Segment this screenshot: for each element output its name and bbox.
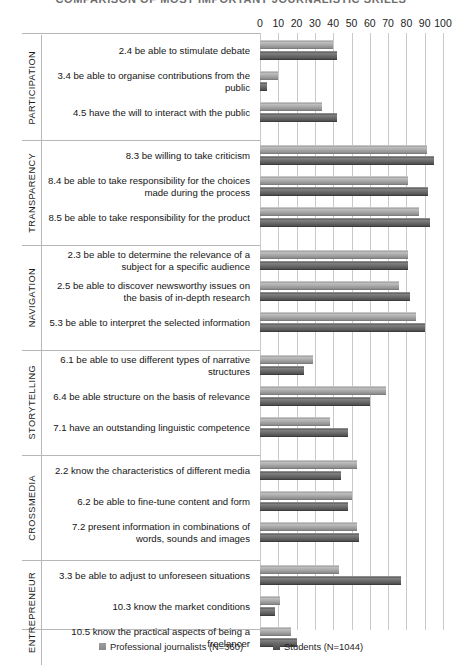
bar-professional-journalists [260, 596, 280, 605]
chart-row: 7.1 have an outstanding linguistic compe… [41, 412, 443, 443]
bar-students [260, 292, 410, 301]
legend-label: Professional journalists (N=360) [110, 641, 243, 652]
row-bars [260, 276, 443, 307]
row-label: 5.3 be able to interpret the selected in… [41, 307, 255, 338]
row-label: 6.4 be able structure on the basis of re… [41, 381, 255, 412]
row-label: 7.1 have an outstanding linguistic compe… [41, 412, 255, 443]
row-bars [260, 97, 443, 128]
section-label-participation: PARTICIPATION [24, 35, 40, 140]
bar-students [260, 533, 359, 542]
row-bars [260, 171, 443, 202]
bar-students [260, 323, 425, 332]
axis-tick-70: 70 [382, 17, 394, 29]
bar-students [260, 397, 370, 406]
row-bars [260, 350, 443, 381]
row-bars [260, 486, 443, 517]
chart-title: COMPARISON OF MOST IMPORTANT JOURNALISTI… [0, 0, 462, 5]
row-label: 8.5 be able to take responsibility for t… [41, 202, 255, 233]
bar-professional-journalists [260, 355, 313, 364]
bar-students [260, 428, 348, 437]
bar-professional-journalists [260, 250, 408, 259]
row-label: 2.5 be able to discover newsworthy issue… [41, 276, 255, 307]
chart-row: 10.3 know the market conditions [41, 591, 443, 622]
legend-swatch-icon [273, 643, 280, 650]
bar-professional-journalists [260, 460, 357, 469]
chart-row: 3.4 be able to organise contributions fr… [41, 66, 443, 97]
axis-tick-60: 60 [364, 17, 376, 29]
bar-students [260, 471, 341, 480]
section-label-text: TRANSPARENCY [27, 153, 37, 233]
chart-row: 3.3 be able to adjust to unforeseen situ… [41, 560, 443, 591]
chart-row: 2.5 be able to discover newsworthy issue… [41, 276, 443, 307]
row-label: 7.2 present information in combinations … [41, 517, 255, 548]
bar-professional-journalists [260, 40, 333, 49]
bar-professional-journalists [260, 417, 330, 426]
axis-tick-20: 20 [291, 17, 303, 29]
bar-students [260, 51, 337, 60]
chart-row: 2.2 know the characteristics of differen… [41, 455, 443, 486]
chart-row: 6.4 be able structure on the basis of re… [41, 381, 443, 412]
section-crossmedia: CROSSMEDIA2.2 know the characteristics o… [22, 455, 443, 560]
row-label: 8.3 be willing to take criticism [41, 140, 255, 171]
row-label: 4.5 have the will to interact with the p… [41, 97, 255, 128]
bar-professional-journalists [260, 312, 416, 321]
bar-professional-journalists [260, 281, 399, 290]
bar-professional-journalists [260, 522, 357, 531]
axis-tick-100: 100 [434, 17, 452, 29]
chart-row: 4.5 have the will to interact with the p… [41, 97, 443, 128]
chart-row: 8.5 be able to take responsibility for t… [41, 202, 443, 233]
axis-tick-90: 90 [419, 17, 431, 29]
row-bars [260, 381, 443, 412]
bar-students [260, 156, 434, 165]
row-bars [260, 412, 443, 443]
bar-students [260, 261, 408, 270]
bar-professional-journalists [260, 386, 386, 395]
row-label: 8.4 be able to take responsibility for t… [41, 171, 255, 202]
bar-students [260, 218, 430, 227]
bar-professional-journalists [260, 491, 352, 500]
bar-professional-journalists [260, 145, 427, 154]
chart-row: 2.3 be able to determine the relevance o… [41, 245, 443, 276]
section-label-crossmedia: CROSSMEDIA [24, 455, 40, 560]
row-bars [260, 560, 443, 591]
row-label: 10.3 know the market conditions [41, 591, 255, 622]
row-label: 2.3 be able to determine the relevance o… [41, 245, 255, 276]
bar-professional-journalists [260, 565, 339, 574]
chart-row: 8.4 be able to take responsibility for t… [41, 171, 443, 202]
plot-area: PARTICIPATION2.4 be able to stimulate de… [22, 33, 443, 630]
section-label-text: STORYTELLING [27, 365, 37, 439]
chart-row: 5.3 be able to interpret the selected in… [41, 307, 443, 338]
section-label-transparency: TRANSPARENCY [24, 140, 40, 245]
chart-row: 8.3 be willing to take criticism [41, 140, 443, 171]
row-label: 2.2 know the characteristics of differen… [41, 455, 255, 486]
section-label-navigation: NAVIGATION [24, 245, 40, 350]
section-label-storytelling: STORYTELLING [24, 350, 40, 455]
axis-tick-30: 30 [309, 17, 321, 29]
bar-students [260, 607, 275, 616]
section-label-text: PARTICIPATION [27, 51, 37, 124]
row-bars [260, 35, 443, 66]
section-navigation: NAVIGATION2.3 be able to determine the r… [22, 245, 443, 350]
legend-entry: Professional journalists (N=360) [99, 641, 243, 652]
bar-professional-journalists [260, 71, 278, 80]
row-bars [260, 307, 443, 338]
axis-tick-80: 80 [401, 17, 413, 29]
section-storytelling: STORYTELLING6.1 be able to use different… [22, 350, 443, 455]
bar-professional-journalists [260, 102, 322, 111]
row-label: 3.3 be able to adjust to unforeseen situ… [41, 560, 255, 591]
bar-students [260, 113, 337, 122]
legend-label: Students (N=1044) [284, 641, 363, 652]
row-label: 6.2 be able to fine-tune content and for… [41, 486, 255, 517]
axis-tick-40: 40 [327, 17, 339, 29]
chart-row: 6.2 be able to fine-tune content and for… [41, 486, 443, 517]
bar-students [260, 502, 348, 511]
bar-students [260, 187, 428, 196]
row-label: 3.4 be able to organise contributions fr… [41, 66, 255, 97]
x-axis-tick-labels: 0102030405060708090100 [0, 17, 462, 31]
bar-students [260, 576, 401, 585]
row-bars [260, 202, 443, 233]
axis-tick-10: 10 [272, 17, 284, 29]
bar-professional-journalists [260, 207, 419, 216]
section-transparency: TRANSPARENCY8.3 be willing to take criti… [22, 140, 443, 245]
bar-professional-journalists [260, 176, 408, 185]
